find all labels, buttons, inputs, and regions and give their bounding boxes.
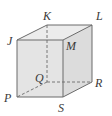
cube-diagram: K L J M Q R P S xyxy=(0,0,112,116)
vertex-label-S: S xyxy=(58,101,64,115)
vertex-label-L: L xyxy=(95,9,103,23)
vertex-label-Q: Q xyxy=(35,71,44,85)
front-face xyxy=(17,40,63,97)
vertex-label-R: R xyxy=(94,76,103,90)
vertex-label-M: M xyxy=(65,39,77,53)
vertex-label-J: J xyxy=(7,34,13,48)
vertex-label-K: K xyxy=(42,9,52,23)
vertex-label-P: P xyxy=(3,91,12,105)
